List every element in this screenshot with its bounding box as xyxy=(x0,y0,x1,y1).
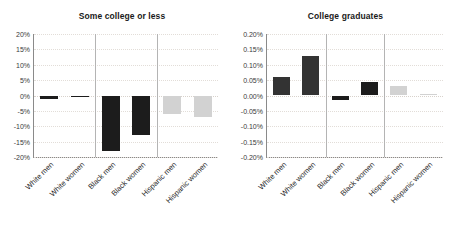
x-axis-tick-labels-left: White menWhite womenBlack menBlack women… xyxy=(34,157,218,227)
bar-hispanic-women xyxy=(194,96,212,118)
plot-area-right: 0.20%0.15%0.10%0.05%0.00%-0.05%-0.10%-0.… xyxy=(266,34,443,158)
y-axis-tick-label: 5% xyxy=(20,77,30,84)
y-axis-tick-label: -10% xyxy=(14,123,30,130)
y-axis-tick-label: -0.15% xyxy=(241,138,263,145)
plot-inner-left: 20%15%10%5%0%-5%-10%-15%-20% xyxy=(34,34,218,157)
group-separator xyxy=(157,34,158,157)
bar-white-men xyxy=(40,96,58,99)
bar-white-men xyxy=(273,77,290,95)
y-axis-tick-label: 0% xyxy=(20,92,30,99)
bar-black-men xyxy=(332,96,349,101)
y-axis-tick-label: -15% xyxy=(14,138,30,145)
group-separator xyxy=(326,34,327,157)
bar-black-women xyxy=(361,82,378,96)
gridline xyxy=(267,49,443,50)
y-axis-tick-label: -20% xyxy=(14,154,30,161)
figure: Some college or less 20%15%10%5%0%-5%-10… xyxy=(0,0,453,229)
y-axis-tick-label: 0.20% xyxy=(243,31,263,38)
gridline xyxy=(267,80,443,81)
plot-inner-right: 0.20%0.15%0.10%0.05%0.00%-0.05%-0.10%-0.… xyxy=(267,34,443,157)
bar-black-men xyxy=(102,96,120,151)
y-axis-tick-label: -0.20% xyxy=(241,154,263,161)
bar-hispanic-men xyxy=(163,96,181,114)
x-axis-tick-label: Black men xyxy=(86,160,117,191)
gridline xyxy=(267,65,443,66)
bar-black-women xyxy=(132,96,150,136)
gridline xyxy=(34,49,218,50)
gridline xyxy=(267,111,443,112)
gridline xyxy=(34,65,218,66)
bar-white-women xyxy=(71,96,89,98)
y-axis-tick-label: 15% xyxy=(16,46,30,53)
group-separator xyxy=(95,34,96,157)
y-axis-tick-label: 0.00% xyxy=(243,92,263,99)
gridline xyxy=(34,142,218,143)
gridline xyxy=(34,80,218,81)
gridline xyxy=(267,126,443,127)
y-axis-tick-label: -0.10% xyxy=(241,123,263,130)
bar-white-women xyxy=(302,56,319,96)
gridline xyxy=(267,96,443,97)
plot-area-left: 20%15%10%5%0%-5%-10%-15%-20% White menWh… xyxy=(33,34,218,158)
y-axis-tick-label: 0.10% xyxy=(243,61,263,68)
y-axis-tick-label: -0.05% xyxy=(241,107,263,114)
chart-title-right: College graduates xyxy=(226,11,453,21)
chart-panel-some-college-or-less: Some college or less 20%15%10%5%0%-5%-10… xyxy=(0,0,226,229)
y-axis-tick-label: 20% xyxy=(16,31,30,38)
group-separator xyxy=(384,34,385,157)
bar-hispanic-men xyxy=(390,86,407,95)
bar-hispanic-women xyxy=(420,94,437,96)
x-axis-tick-labels-right: White menWhite womenBlack menBlack women… xyxy=(267,157,443,227)
y-axis-tick-label: 0.05% xyxy=(243,77,263,84)
chart-title-left: Some college or less xyxy=(0,11,226,21)
gridline xyxy=(34,126,218,127)
gridline xyxy=(267,34,443,35)
gridline xyxy=(34,96,218,97)
y-axis-tick-label: 10% xyxy=(16,61,30,68)
x-axis-tick-label: White men xyxy=(24,160,56,192)
y-axis-tick-label: 0.15% xyxy=(243,46,263,53)
y-axis-tick-label: -5% xyxy=(18,107,30,114)
gridline xyxy=(267,142,443,143)
chart-panel-college-graduates: College graduates 0.20%0.15%0.10%0.05%0.… xyxy=(226,0,453,229)
gridline xyxy=(34,34,218,35)
gridline xyxy=(34,111,218,112)
